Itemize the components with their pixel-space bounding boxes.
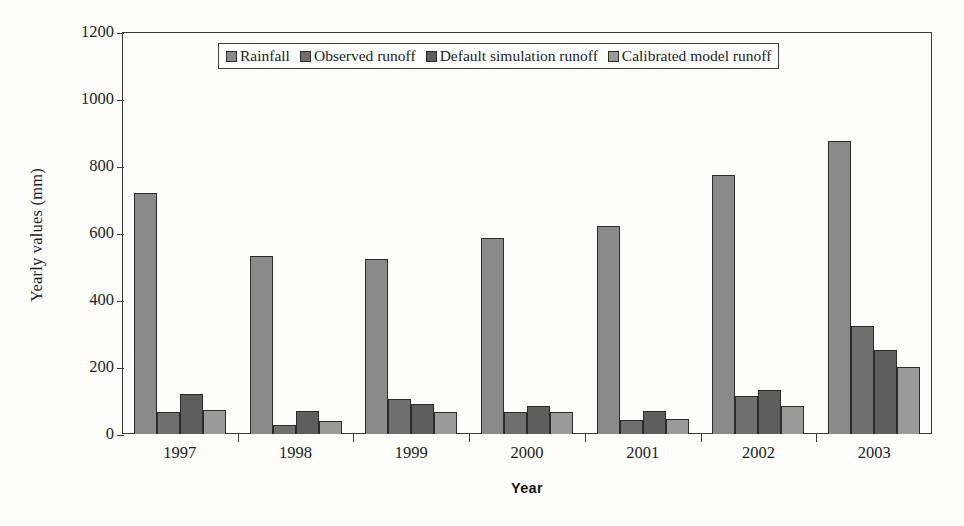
bar — [735, 396, 758, 434]
x-axis-tick-mark — [701, 434, 702, 442]
bar — [319, 421, 342, 434]
bar — [712, 175, 735, 434]
bar — [157, 412, 180, 434]
y-axis-tick-label: 400 — [89, 290, 114, 310]
x-axis-tick-label: 2003 — [858, 443, 891, 463]
y-axis-tick-label: 1200 — [81, 22, 114, 42]
y-axis-label: Yearly values (mm) — [27, 168, 47, 302]
bar-group — [469, 32, 585, 434]
y-axis-tick-label: 800 — [89, 156, 114, 176]
x-axis-tick-label: 2002 — [742, 443, 775, 463]
bar-chart-figure: Yearly values (mm) 020040060080010001200… — [0, 0, 964, 526]
legend-label: Rainfall — [240, 47, 290, 65]
bar — [388, 399, 411, 434]
y-axis-label-container: Yearly values (mm) — [22, 0, 52, 470]
legend-swatch-icon — [426, 51, 437, 62]
bar — [411, 404, 434, 434]
bar — [296, 411, 319, 434]
legend-swatch-icon — [608, 51, 619, 62]
x-axis-tick-labels: 1997199819992000200120022003 — [122, 443, 932, 469]
bar — [434, 412, 457, 434]
legend-entry: Rainfall — [226, 47, 290, 65]
bar — [897, 367, 920, 434]
bar — [527, 406, 550, 434]
y-axis-tick-label: 1000 — [81, 89, 114, 109]
x-axis-tick-label: 1999 — [395, 443, 428, 463]
x-axis-tick-label: 2000 — [511, 443, 544, 463]
bar — [273, 425, 296, 434]
x-axis-tick-mark — [238, 434, 239, 442]
x-axis-tick-mark — [353, 434, 354, 442]
bar-group — [585, 32, 701, 434]
x-axis-label: Year — [122, 480, 932, 496]
bar — [781, 406, 804, 434]
y-axis-tick-label: 0 — [106, 424, 114, 444]
bar — [250, 256, 273, 434]
bar — [851, 326, 874, 434]
x-axis-tick-label: 1997 — [163, 443, 196, 463]
bar — [666, 419, 689, 434]
bar — [365, 259, 388, 434]
bar — [597, 226, 620, 434]
legend-entry: Default simulation runoff — [426, 47, 598, 65]
y-axis-tick-labels: 020040060080010001200 — [56, 32, 114, 434]
y-axis-tick-label: 600 — [89, 223, 114, 243]
bar — [134, 193, 157, 434]
legend-swatch-icon — [300, 51, 311, 62]
bar — [758, 390, 781, 434]
x-axis-tick-mark — [585, 434, 586, 442]
legend-label: Observed runoff — [314, 47, 416, 65]
x-axis-tick-label: 1998 — [279, 443, 312, 463]
bar — [643, 411, 666, 434]
bar — [620, 420, 643, 434]
x-axis-tick-marks — [122, 434, 932, 443]
legend-swatch-icon — [226, 51, 237, 62]
legend-label: Calibrated model runoff — [622, 47, 772, 65]
bar-group — [122, 32, 238, 434]
bar — [180, 394, 203, 434]
bar — [481, 238, 504, 434]
bar-group — [701, 32, 817, 434]
y-axis-tick-label: 200 — [89, 357, 114, 377]
bar — [828, 141, 851, 434]
x-axis-tick-mark — [816, 434, 817, 442]
x-axis-tick-mark — [469, 434, 470, 442]
legend-entry: Calibrated model runoff — [608, 47, 772, 65]
legend-entry: Observed runoff — [300, 47, 416, 65]
plot-area — [122, 32, 932, 434]
bar-group — [238, 32, 354, 434]
x-axis-tick-label: 2001 — [626, 443, 659, 463]
bar — [504, 412, 527, 434]
bar-group — [353, 32, 469, 434]
chart-legend: RainfallObserved runoffDefault simulatio… — [218, 43, 779, 69]
bar — [874, 350, 897, 434]
bar-group — [816, 32, 932, 434]
legend-label: Default simulation runoff — [440, 47, 598, 65]
bar — [203, 410, 226, 434]
bar — [550, 412, 573, 434]
